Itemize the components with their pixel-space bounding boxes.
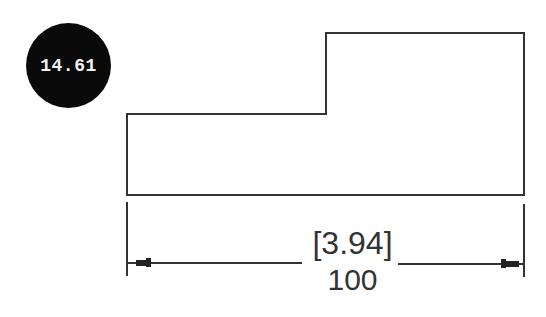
part-outline — [127, 33, 524, 195]
dimension-alternate-value: [3.94] — [305, 224, 400, 262]
arrowhead-right-icon — [501, 259, 519, 268]
dimension-badge: 14.61 — [26, 23, 111, 108]
dimension-primary-value: 100 — [305, 262, 400, 298]
badge-value: 14.61 — [40, 56, 97, 76]
arrowhead-left-icon — [136, 258, 151, 267]
